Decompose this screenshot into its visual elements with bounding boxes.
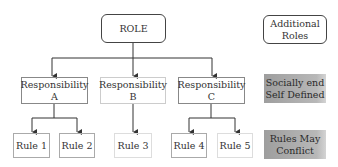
responsibility-label: Responsibility bbox=[99, 79, 167, 91]
role-label: ROLE bbox=[119, 23, 147, 35]
responsibility-label: Responsibility bbox=[178, 79, 246, 91]
rule-label: Rule 1 bbox=[16, 140, 47, 152]
rule-label: Rule 3 bbox=[118, 140, 149, 152]
responsibility-a-node: Responsibility A bbox=[21, 77, 88, 104]
note-line2: Roles bbox=[282, 30, 308, 42]
rule-4-node: Rule 4 bbox=[171, 133, 207, 158]
responsibility-label: Responsibility bbox=[21, 79, 89, 91]
additional-roles-note: Additional Roles bbox=[263, 15, 327, 44]
rules-conflict-note: Rules May Conflict bbox=[264, 130, 326, 159]
rule-label: Rule 2 bbox=[62, 140, 93, 152]
responsibility-letter: B bbox=[130, 91, 137, 103]
socially-defined-note: Socially end Self Defined bbox=[264, 74, 326, 103]
note-line2: Self Defined bbox=[265, 89, 324, 101]
responsibility-c-node: Responsibility C bbox=[178, 77, 245, 104]
rule-3-node: Rule 3 bbox=[114, 133, 152, 158]
rule-5-node: Rule 5 bbox=[217, 133, 253, 158]
responsibility-letter: A bbox=[51, 91, 58, 103]
note-line2: Conflict bbox=[276, 145, 314, 157]
role-node: ROLE bbox=[101, 14, 166, 43]
note-line1: Rules May bbox=[270, 133, 321, 145]
rule-label: Rule 4 bbox=[174, 140, 205, 152]
rule-2-node: Rule 2 bbox=[59, 133, 95, 158]
responsibility-letter: C bbox=[208, 91, 215, 103]
note-line1: Socially end bbox=[266, 77, 325, 89]
responsibility-b-node: Responsibility B bbox=[100, 77, 166, 104]
rule-1-node: Rule 1 bbox=[13, 133, 50, 158]
rule-label: Rule 5 bbox=[220, 140, 251, 152]
note-line1: Additional bbox=[270, 18, 319, 30]
